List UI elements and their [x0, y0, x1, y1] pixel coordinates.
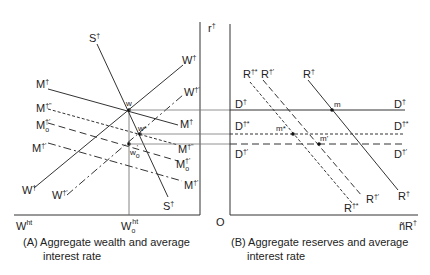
label-m-o-prime-left: Mo†': [36, 118, 50, 133]
x-axis-label-w-o-ht: Woht: [121, 218, 138, 234]
label-w-prime-top: W†': [184, 86, 200, 98]
panel-b: r† O ñR† D† D† D†* D†* D†' D†' R† R† R†'…: [208, 22, 418, 262]
point-m-star: [291, 132, 295, 136]
label-d-prime-right: D†': [394, 148, 407, 160]
label-w-bottom: W†: [22, 184, 36, 196]
label-point-m-star: m*: [276, 124, 286, 133]
label-m-double-prime-left: M†": [36, 102, 52, 114]
label-m-double-prime-right: M†": [178, 143, 194, 155]
label-point-m-prime: m': [320, 134, 329, 143]
label-d-left: D†: [235, 98, 247, 110]
m-double-prime-curve: [48, 109, 178, 145]
label-point-m: m: [334, 100, 341, 109]
label-r-star-bottom: R†*: [344, 202, 359, 214]
label-point-w-star: w*: [137, 124, 147, 133]
label-m-prime-right: M†': [184, 179, 198, 191]
origin-label: O: [216, 216, 225, 228]
panel-a-caption-line1: (A) Aggregate wealth and average: [23, 236, 190, 248]
label-m-right: M†: [180, 118, 193, 130]
label-d-right: D†: [394, 98, 406, 110]
panel-a-caption-line2: interest rate: [43, 250, 101, 262]
label-r-prime-bottom: R†': [366, 193, 379, 205]
label-m-prime-left: M†': [32, 142, 46, 154]
label-d-prime-left: D†': [235, 148, 248, 160]
label-r-bottom: R†: [398, 190, 410, 202]
r-prime-curve: [263, 80, 362, 196]
w-curve: [34, 65, 183, 188]
panel-b-caption-line1: (B) Aggregate reserves and average: [231, 236, 408, 248]
diagram-canvas: S† S† W† W† W†' W†' M† M† M†" M†" Mo†' M…: [0, 0, 430, 275]
label-r-star-top: R†*: [243, 68, 258, 80]
label-point-w-o-prime: wo': [129, 144, 140, 159]
label-r-prime-top: R†': [261, 68, 274, 80]
label-d-star-left: D†*: [235, 120, 250, 132]
x-axis-label-w-ht: Wht: [16, 219, 32, 232]
m-curve: [48, 89, 178, 125]
label-m-o-prime-right: Mo†': [176, 157, 190, 172]
y-axis-label-r: r†: [208, 22, 216, 34]
label-w-top: W†: [182, 54, 196, 66]
label-s-bottom: S†: [163, 200, 174, 212]
label-w-prime-bottom: W†': [52, 189, 68, 201]
m-prime-curve: [48, 143, 182, 181]
label-d-star-right: D†*: [394, 120, 409, 132]
label-point-w: w: [125, 99, 132, 108]
label-m-left: M†: [36, 78, 49, 90]
panel-a: S† S† W† W† W†' W†' M† M† M†" M†" Mo†' M…: [14, 22, 200, 262]
x-axis-label-nr: ñR†: [399, 219, 417, 232]
label-r-top: R†: [303, 68, 315, 80]
panel-b-caption-line2: interest rate: [247, 250, 305, 262]
label-s-top: S†: [89, 32, 100, 44]
